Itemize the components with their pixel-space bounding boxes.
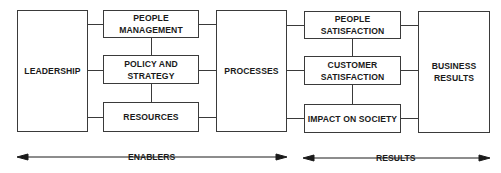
excellence-model-diagram: LEADERSHIP PEOPLE MANAGEMENT POLICY AND … [0, 0, 501, 173]
enablers-axis-label: ENABLERS [128, 152, 175, 162]
results-axis-label: RESULTS [376, 153, 415, 163]
axis-arrows [0, 0, 501, 173]
